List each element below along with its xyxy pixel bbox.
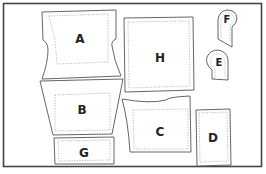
pattern-piece-d: D <box>196 109 231 166</box>
pattern-piece-g: G <box>54 137 114 164</box>
piece-label-a: A <box>75 32 85 46</box>
pattern-piece-h: H <box>124 17 194 92</box>
pattern-piece-a: A <box>42 10 121 79</box>
piece-label-d: D <box>208 131 218 145</box>
pattern-piece-b: B <box>40 79 123 135</box>
piece-label-f: F <box>224 14 231 25</box>
piece-label-g: G <box>79 146 89 160</box>
pattern-diagram: A B G H C D E F <box>0 0 266 174</box>
pattern-piece-c: C <box>122 96 191 152</box>
piece-label-b: B <box>77 103 86 117</box>
piece-label-h: H <box>155 51 165 65</box>
piece-label-c: C <box>156 125 165 139</box>
piece-label-e: E <box>216 57 223 68</box>
